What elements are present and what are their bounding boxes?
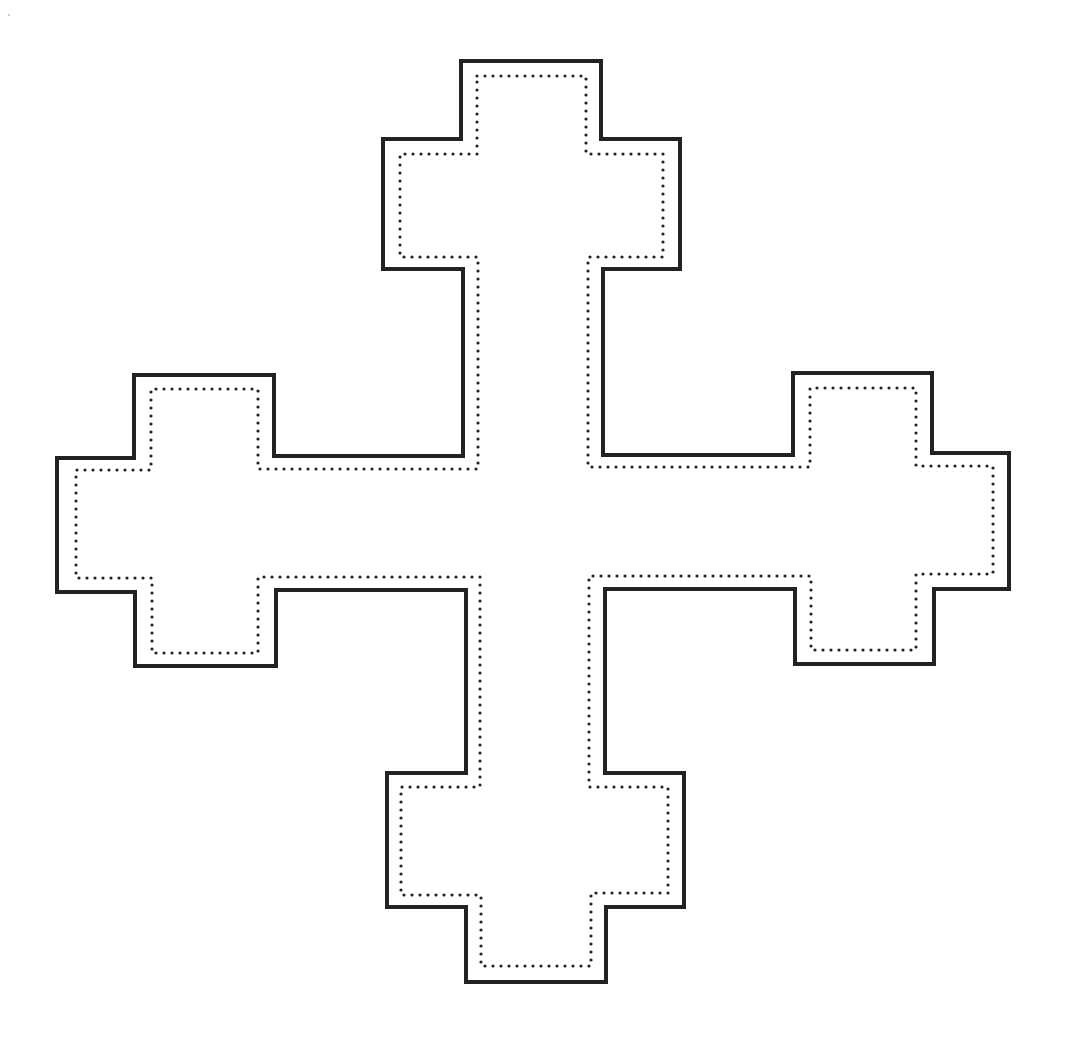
outer-solid-outline bbox=[57, 61, 1009, 982]
cross-crosslet-figure bbox=[0, 0, 1068, 1042]
inner-dotted-outline bbox=[76, 76, 993, 966]
diagram-canvas bbox=[0, 0, 1068, 1042]
